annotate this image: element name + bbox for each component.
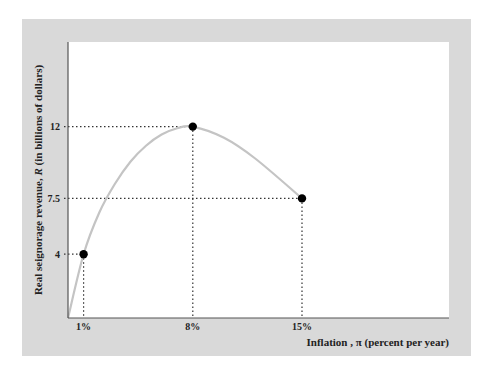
y-tick-label: 4 — [55, 249, 60, 260]
x-tick-labels: 1%8%15% — [76, 321, 312, 332]
data-point — [298, 194, 306, 202]
x-axis-label: Inflation , π (percent per year) — [307, 336, 450, 349]
y-tick-label: 7.5 — [48, 193, 61, 204]
data-point — [79, 250, 87, 258]
plot-area — [68, 42, 449, 318]
y-axis-label: Real seignorage revenue, R (in billions … — [32, 65, 45, 296]
y-tick-labels: 47.512 — [48, 121, 61, 260]
x-tick-label: 15% — [292, 321, 312, 332]
x-tick-label: 8% — [185, 321, 200, 332]
x-tick-label: 1% — [76, 321, 91, 332]
data-point — [189, 122, 197, 130]
y-tick-label: 12 — [50, 121, 60, 132]
chart: 47.512 1%8%15% Inflation , π (percent pe… — [0, 0, 491, 369]
